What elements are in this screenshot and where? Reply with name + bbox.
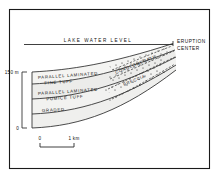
scale-bar xyxy=(40,143,74,147)
scale-bar-label-end: 1 km xyxy=(68,136,79,141)
eruption-center-label-line1: ERUPTION xyxy=(177,39,206,44)
lake-water-level-label: LAKE WATER LEVEL xyxy=(64,38,133,43)
scale-bar-label-start: 0 xyxy=(39,136,42,141)
axis-label-bottom: 0 xyxy=(16,126,19,131)
cross-section-diagram: LAKE WATER LEVEL ERUPTION CENTER 150 m 0… xyxy=(0,0,219,178)
eruption-center-label-line2: CENTER xyxy=(177,46,200,51)
vertical-scale-axis xyxy=(22,72,27,128)
axis-label-top: 150 m xyxy=(5,70,19,75)
figure-root: LAKE WATER LEVEL ERUPTION CENTER 150 m 0… xyxy=(0,0,219,178)
